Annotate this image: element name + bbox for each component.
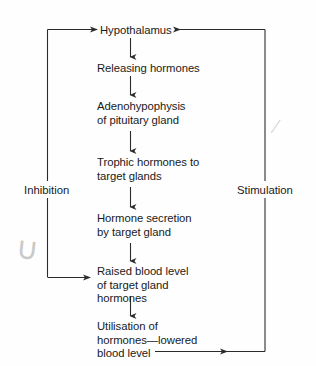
node-releasing-hormones: Releasing hormones	[97, 62, 200, 76]
endocrine-feedback-diagram: Hypothalamus Releasing hormones Adenohyp…	[0, 0, 316, 366]
node-hypothalamus: Hypothalamus	[100, 24, 172, 38]
node-trophic-hormones: Trophic hormones totarget glands	[97, 156, 199, 183]
pencil-slash-mark: ⁄	[274, 116, 277, 138]
pencil-loop-mark: ∪	[14, 229, 41, 268]
node-hormone-secretion: Hormone secretionby target gland	[97, 212, 192, 239]
node-utilisation: Utilisation ofhormones—loweredblood leve…	[97, 320, 197, 361]
node-adenohypophysis: Adenohypophysisof pituitary gland	[97, 100, 185, 127]
label-inhibition: Inhibition	[21, 184, 72, 198]
label-stimulation: Stimulation	[234, 184, 296, 198]
node-raised-blood-level: Raised blood levelof target glandhormone…	[97, 265, 188, 306]
